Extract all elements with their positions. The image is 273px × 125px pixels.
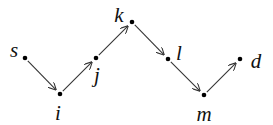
node-d-label: d (251, 49, 262, 73)
node-k-label: k (114, 3, 124, 27)
edge-l-m-arrow (171, 62, 200, 91)
nodes (23, 20, 243, 98)
node-s-dot (23, 56, 28, 61)
edges (28, 25, 236, 92)
node-m-dot (202, 93, 207, 98)
node-i-label: i (55, 101, 61, 125)
edge-k-l-arrow (135, 25, 164, 55)
edge-i-j-arrow (63, 62, 92, 91)
edge-s-i-arrow (28, 61, 56, 90)
node-k-dot (130, 20, 135, 25)
node-s-label: s (10, 38, 18, 62)
node-j-dot (94, 56, 99, 61)
node-m-label: m (196, 102, 211, 125)
node-l-label: l (176, 41, 182, 65)
node-d-dot (238, 57, 243, 62)
edge-j-k-arrow (99, 26, 128, 55)
directed-path-diagram: sijklmd (0, 0, 273, 125)
edge-m-d-arrow (207, 63, 236, 92)
node-j-label: j (91, 63, 100, 87)
labels: sijklmd (10, 3, 262, 125)
node-l-dot (166, 57, 171, 62)
node-i-dot (58, 92, 63, 97)
